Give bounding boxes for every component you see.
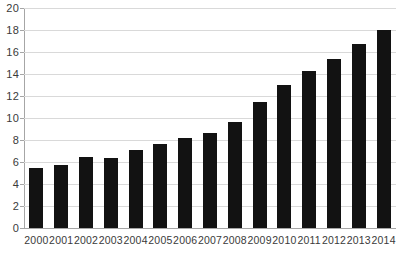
y-axis: 02468101214161820: [0, 0, 22, 262]
y-tick-label: 16: [6, 46, 19, 58]
x-tick-label: 2014: [372, 234, 396, 246]
y-tick-label: 4: [13, 178, 19, 190]
y-tick-label: 14: [6, 68, 19, 80]
bar: [203, 133, 217, 228]
y-tick-label: 18: [6, 24, 19, 36]
bar: [54, 165, 68, 228]
y-tick-label: 6: [13, 156, 19, 168]
y-tick-label: 2: [13, 200, 19, 212]
y-tick-label: 8: [13, 134, 19, 146]
y-tick-label: 0: [13, 222, 19, 234]
bar: [253, 102, 267, 229]
bar: [302, 71, 316, 228]
x-tick-label: 2008: [223, 234, 247, 246]
bar: [277, 85, 291, 228]
x-tick-label: 2009: [248, 234, 272, 246]
x-tick-label: 2012: [322, 234, 346, 246]
x-tick-label: 2006: [173, 234, 197, 246]
y-tick-label: 10: [6, 112, 19, 124]
x-tick-label: 2002: [74, 234, 98, 246]
y-tick-mark: [20, 228, 24, 229]
bar: [377, 30, 391, 228]
x-tick-label: 2010: [272, 234, 296, 246]
y-tick-label: 20: [6, 2, 19, 14]
x-tick-label: 2007: [198, 234, 222, 246]
x-tick-label: 2003: [99, 234, 123, 246]
bar: [352, 44, 366, 228]
bar: [29, 168, 43, 229]
y-tick-label: 12: [6, 90, 19, 102]
bar: [129, 150, 143, 228]
x-tick-label: 2001: [49, 234, 73, 246]
x-axis: 2000200120022003200420052006200720082009…: [24, 234, 396, 254]
x-tick-label: 2005: [148, 234, 172, 246]
bar: [327, 59, 341, 228]
bar: [104, 158, 118, 228]
bars: [24, 8, 396, 228]
x-tick-label: 2004: [124, 234, 148, 246]
bar: [153, 144, 167, 228]
x-tick-label: 2011: [297, 234, 320, 246]
plot-area: [24, 8, 396, 228]
bar: [178, 138, 192, 228]
x-axis-line: [24, 228, 396, 229]
bar: [79, 157, 93, 229]
bar: [228, 122, 242, 228]
bar-chart: 02468101214161820 2000200120022003200420…: [0, 0, 404, 262]
x-tick-label: 2000: [24, 234, 48, 246]
x-tick-label: 2013: [347, 234, 371, 246]
